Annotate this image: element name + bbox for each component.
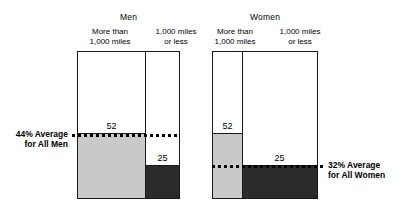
group-title-men: Men <box>77 12 180 22</box>
average-label-line1: 44% Average <box>0 129 68 139</box>
value-label-women-1000-or-less: 25 <box>243 153 316 163</box>
average-label-line2: for All Women <box>328 170 400 180</box>
column-label-line1: 1,000 miles <box>268 27 332 37</box>
column-label-line1: More than <box>72 27 148 37</box>
column-label-line2: 1,000 miles <box>72 37 148 47</box>
column-label-women-more-than-1000: More than 1,000 miles <box>197 27 273 46</box>
average-label-line2: for All Men <box>0 139 68 149</box>
average-label-women: 32% Average for All Women <box>328 160 400 180</box>
average-label-line1: 32% Average <box>328 160 400 170</box>
average-label-men: 44% Average for All Men <box>0 129 68 149</box>
column-label-line1: More than <box>197 27 273 37</box>
bar-men-1000-or-less <box>146 165 178 198</box>
average-line-women <box>212 165 325 168</box>
bar-men-more-than-1000 <box>78 133 145 198</box>
value-label-men-more-than-1000: 52 <box>78 121 145 131</box>
average-line-men <box>72 134 180 137</box>
column-label-women-1000-or-less: 1,000 miles or less <box>268 27 332 46</box>
group-title-women: Women <box>212 12 318 22</box>
column-label-men-more-than-1000: More than 1,000 miles <box>72 27 148 46</box>
column-label-line2: or less <box>268 37 332 47</box>
value-label-men-1000-or-less: 25 <box>146 153 179 163</box>
bar-women-1000-or-less <box>243 165 316 198</box>
chart-canvas: Men More than 1,000 miles 1,000 miles or… <box>0 0 400 219</box>
value-label-women-more-than-1000: 52 <box>212 121 243 131</box>
column-label-line2: 1,000 miles <box>197 37 273 47</box>
